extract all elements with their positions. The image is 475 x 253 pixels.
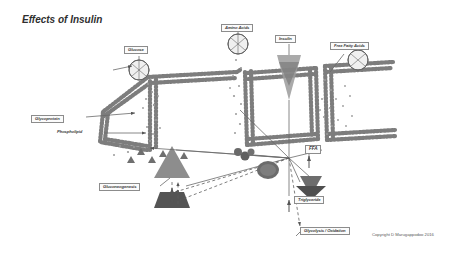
- signal-lines-dashed: [172, 158, 300, 226]
- label-ffa[interactable]: FFA: [305, 145, 321, 154]
- label-gluconeogenesis[interactable]: Gluconeogenesis: [99, 183, 140, 191]
- label-phospholipid[interactable]: Phospholipid: [57, 130, 82, 134]
- diagram-artwork: [0, 0, 475, 253]
- label-glucose[interactable]: Glucose: [124, 46, 148, 54]
- label-triglyceride[interactable]: Triglyceride: [294, 196, 324, 204]
- label-free-fatty-acids[interactable]: Free Fatty Acids: [330, 42, 369, 50]
- copyright-notice: Copyright D Marugappodoo 2016: [372, 232, 434, 237]
- diagram-canvas: Effects of Insulin Glucose Amino Acids I…: [0, 0, 475, 253]
- label-glycoprotein[interactable]: Glycoprotein: [31, 115, 64, 123]
- label-insulin[interactable]: Insulin: [275, 35, 296, 43]
- rate-triangles: [154, 55, 326, 208]
- label-amino-acids[interactable]: Amino Acids: [221, 24, 253, 32]
- label-glycolysis-oxidation[interactable]: Glycolysis / Oxidation: [300, 227, 350, 235]
- vesicle-blobs: [234, 148, 279, 179]
- page-title: Effects of Insulin: [22, 14, 102, 25]
